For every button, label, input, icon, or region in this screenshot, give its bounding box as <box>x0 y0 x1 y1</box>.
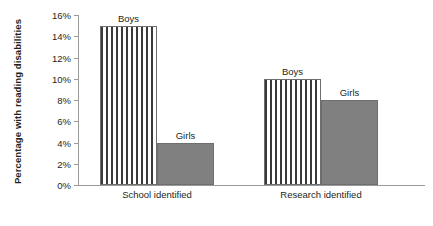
y-axis-tick-label: 2% <box>57 158 71 169</box>
y-axis-tick-label: 0% <box>57 180 71 191</box>
bar-girls-school: Girls <box>157 143 214 186</box>
y-axis-tick-label: 4% <box>57 137 71 148</box>
y-axis-tick <box>74 185 78 186</box>
y-axis-tick <box>74 143 78 144</box>
y-axis-title: Percentage with reading disabilities <box>12 9 23 195</box>
bar-boys-school: Boys <box>100 26 157 185</box>
y-axis-tick-label: 6% <box>57 116 71 127</box>
y-axis-tick <box>74 79 78 80</box>
y-axis-tick <box>74 100 78 101</box>
bar-label: Girls <box>176 130 196 141</box>
y-axis-tick <box>74 121 78 122</box>
y-axis-tick <box>74 58 78 59</box>
y-axis-tick <box>74 36 78 37</box>
y-axis-tick-label: 8% <box>57 95 71 106</box>
y-axis-tick-label: 10% <box>52 73 71 84</box>
y-axis-tick-label: 12% <box>52 52 71 63</box>
y-axis-line <box>78 15 79 185</box>
category-label: School identified <box>122 189 192 200</box>
bar-label: Girls <box>340 87 360 98</box>
plot-area: 0%2%4%6%8%10%12%14%16% BoysGirlsBoysGirl… <box>78 15 425 185</box>
y-axis-tick-label: 14% <box>52 31 71 42</box>
bar-boys-research: Boys <box>264 79 321 185</box>
y-axis-tick <box>74 164 78 165</box>
category-label: Research identified <box>280 189 361 200</box>
y-axis-tick-label: 16% <box>52 10 71 21</box>
y-axis-tick <box>74 15 78 16</box>
bar-girls-research: Girls <box>321 100 378 185</box>
bar-label: Boys <box>118 13 139 24</box>
bar-chart: Percentage with reading disabilities 0%2… <box>0 0 433 226</box>
bar-label: Boys <box>282 66 303 77</box>
x-axis-line <box>78 185 425 186</box>
